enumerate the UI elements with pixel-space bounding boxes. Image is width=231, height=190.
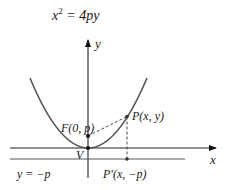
point-label: P(x, y) <box>131 109 164 123</box>
y-axis-label: y <box>93 36 101 51</box>
parabola-diagram: x2 = 4py x y y = −p F(0, p) P(x, y) V P′… <box>0 0 231 190</box>
vertex-point <box>86 146 90 150</box>
vertex-label: V <box>76 148 85 162</box>
projection-label: P′(x, −p) <box>102 167 146 181</box>
projection-point <box>125 157 129 161</box>
focus-label: F(0, p) <box>60 121 94 135</box>
equation-title: x2 = 4py <box>51 6 100 23</box>
directrix-label: y = −p <box>16 167 51 181</box>
x-axis-label: x <box>209 152 216 167</box>
parabola-point <box>125 115 129 119</box>
